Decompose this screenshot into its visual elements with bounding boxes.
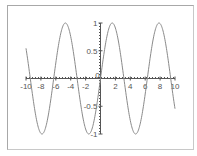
x-tick-label: -2: [82, 82, 90, 91]
x-tick-label: -8: [37, 82, 45, 91]
x-tick-label: -4: [67, 82, 75, 91]
y-tick-label: 1: [93, 19, 98, 28]
x-tick-label: 4: [128, 82, 133, 91]
sine-plot: -10-8-6-4-20246810-1-0.50.51: [0, 0, 197, 156]
x-tick-label: 8: [158, 82, 163, 91]
x-tick-label: 2: [113, 82, 118, 91]
x-tick-label: 0: [95, 71, 100, 80]
y-tick-label: 0.5: [86, 47, 98, 56]
